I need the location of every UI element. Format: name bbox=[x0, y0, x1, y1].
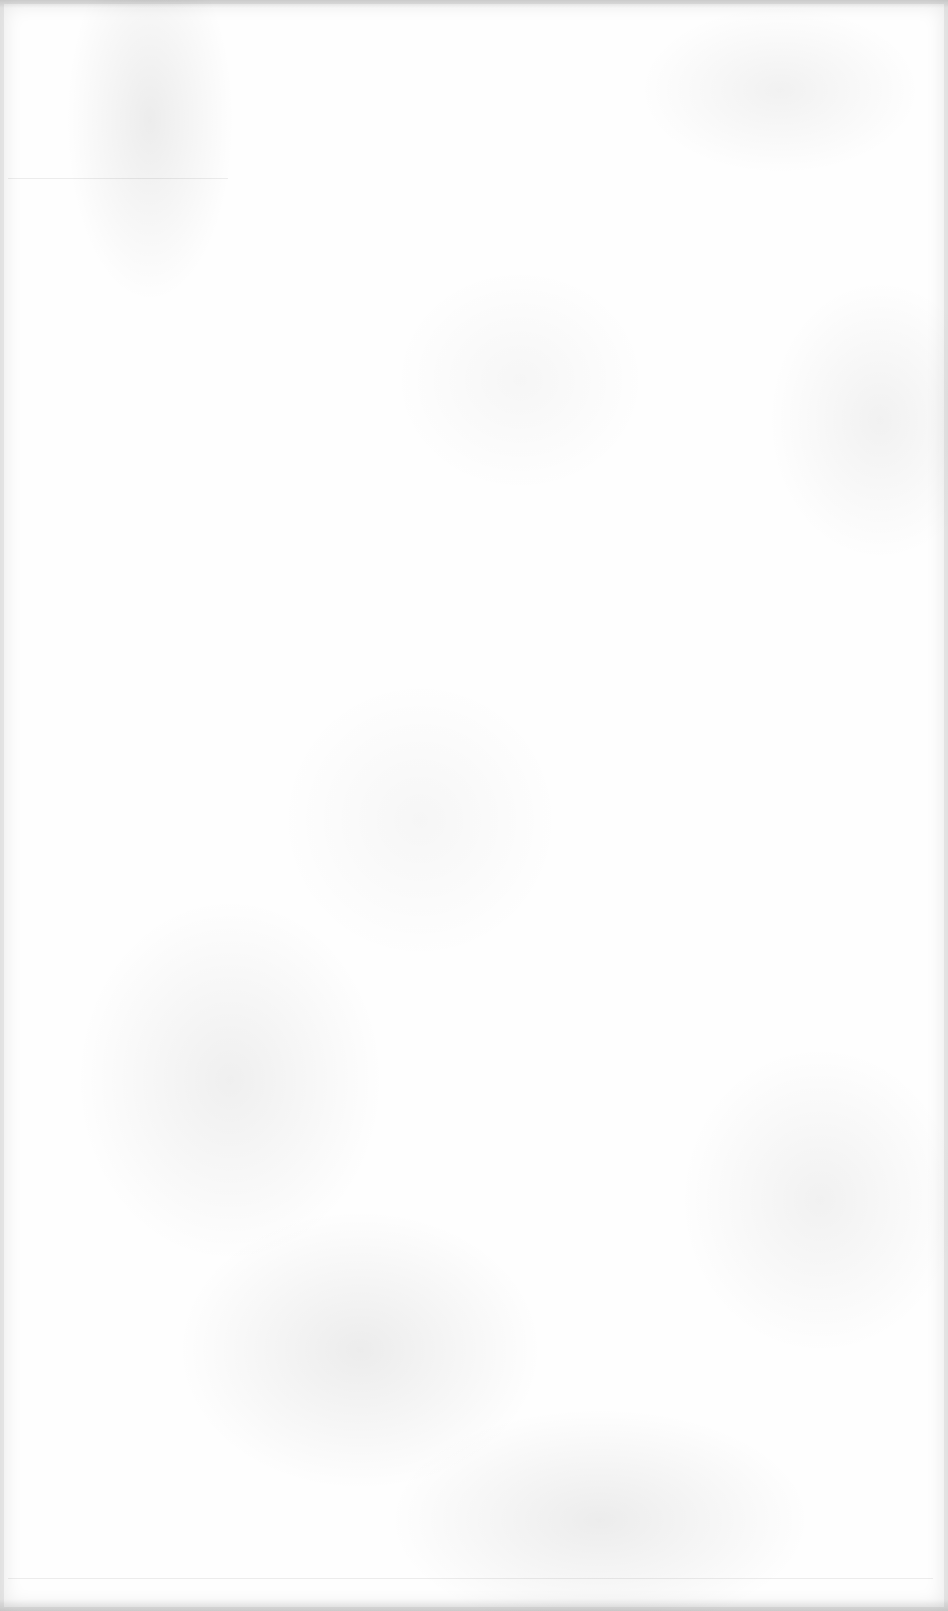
blank-page bbox=[0, 0, 948, 1611]
scan-edge-bottom bbox=[0, 1599, 948, 1611]
scan-edge-top bbox=[0, 0, 948, 8]
paper-texture bbox=[0, 0, 948, 1611]
faint-rule-bottom bbox=[8, 1578, 933, 1579]
faint-rule-top bbox=[8, 178, 228, 179]
